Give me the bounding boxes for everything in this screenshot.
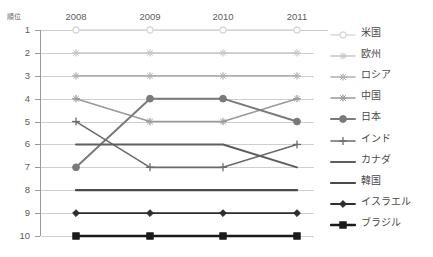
legend-point — [340, 222, 346, 228]
legend-label: ロシア — [361, 70, 391, 80]
series-line — [76, 144, 297, 167]
legend-swatch — [330, 217, 356, 229]
data-point — [72, 118, 80, 126]
legend-item-インド[interactable]: インド — [330, 128, 430, 149]
data-point — [72, 49, 80, 56]
data-point — [72, 95, 80, 102]
legend-item-米国[interactable]: 米国 — [330, 22, 430, 43]
legend-label: 中国 — [361, 91, 381, 101]
legend-marker-icon — [330, 71, 356, 83]
legend-marker-icon — [330, 50, 356, 62]
legend-label: ブラジル — [361, 218, 401, 228]
legend-item-ブラジル[interactable]: ブラジル — [330, 213, 430, 234]
data-point — [293, 49, 301, 56]
legend: 米国欧州ロシア中国日本インドカナダ韓国イスラエルブラジル — [330, 22, 430, 234]
legend-marker-icon — [330, 177, 356, 189]
legend-point — [339, 73, 347, 80]
data-point — [294, 27, 300, 33]
legend-point — [340, 32, 346, 38]
series-カナダ — [76, 144, 297, 167]
legend-label: インド — [361, 134, 391, 144]
data-point — [146, 163, 154, 171]
legend-swatch — [330, 196, 356, 208]
rank-line-chart: 順位 2008200920102011 12345678910 米国欧州ロシア中… — [0, 0, 433, 257]
legend-item-日本[interactable]: 日本 — [330, 107, 430, 128]
legend-point — [340, 116, 347, 123]
legend-swatch — [330, 175, 356, 187]
legend-marker-icon — [330, 113, 356, 125]
data-point — [294, 118, 301, 125]
legend-swatch — [330, 133, 356, 145]
legend-swatch — [330, 154, 356, 166]
data-point — [147, 27, 153, 33]
data-point — [219, 72, 227, 79]
legend-label: カナダ — [361, 155, 391, 165]
legend-swatch — [330, 69, 356, 81]
legend-label: 欧州 — [361, 49, 381, 59]
data-point — [73, 164, 80, 171]
data-point — [147, 95, 154, 102]
legend-marker-icon — [330, 198, 356, 210]
legend-label: 日本 — [361, 112, 381, 122]
legend-marker-icon — [330, 135, 356, 147]
data-point — [293, 72, 301, 79]
data-point — [220, 95, 227, 102]
legend-item-カナダ[interactable]: カナダ — [330, 149, 430, 170]
data-point — [147, 233, 153, 239]
legend-swatch — [330, 90, 356, 102]
legend-point — [340, 201, 347, 208]
legend-item-韓国[interactable]: 韓国 — [330, 170, 430, 191]
legend-item-ロシア[interactable]: ロシア — [330, 64, 430, 85]
legend-swatch — [330, 48, 356, 60]
legend-marker-icon — [330, 29, 356, 41]
legend-item-中国[interactable]: 中国 — [330, 86, 430, 107]
data-point — [147, 210, 154, 217]
data-point — [73, 210, 80, 217]
data-point — [73, 233, 79, 239]
data-point — [146, 118, 154, 125]
series-ブラジル — [73, 233, 300, 239]
legend-label: 韓国 — [361, 176, 381, 186]
legend-point — [339, 95, 347, 102]
data-point — [73, 27, 79, 33]
data-point — [219, 163, 227, 171]
legend-item-欧州[interactable]: 欧州 — [330, 43, 430, 64]
series-line — [76, 99, 297, 122]
legend-marker-icon — [330, 219, 356, 231]
legend-item-イスラエル[interactable]: イスラエル — [330, 192, 430, 213]
series-米国 — [73, 27, 300, 33]
series-イスラエル — [73, 210, 301, 217]
data-point — [293, 95, 301, 102]
legend-marker-icon — [330, 156, 356, 168]
series-日本 — [73, 95, 301, 170]
legend-swatch — [330, 111, 356, 123]
legend-point — [339, 137, 347, 145]
data-point — [220, 210, 227, 217]
legend-point — [339, 52, 347, 59]
data-point — [220, 233, 226, 239]
legend-swatch — [330, 27, 356, 39]
data-point — [219, 49, 227, 56]
data-point — [220, 27, 226, 33]
data-point — [219, 118, 227, 125]
legend-marker-icon — [330, 92, 356, 104]
legend-label: イスラエル — [361, 197, 411, 207]
data-point — [293, 140, 301, 148]
legend-label: 米国 — [361, 28, 381, 38]
series-欧州 — [72, 49, 301, 56]
data-point — [294, 210, 301, 217]
data-point — [72, 72, 80, 79]
data-point — [146, 49, 154, 56]
data-point — [294, 233, 300, 239]
series-ロシア — [72, 72, 301, 79]
data-point — [146, 72, 154, 79]
